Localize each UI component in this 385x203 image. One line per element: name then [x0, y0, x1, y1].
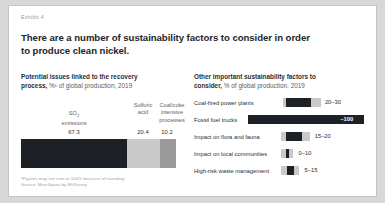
bar-track-impact-on-flora-and-fauna: [281, 132, 310, 141]
stacked-bar-segment-coal-coke: [160, 139, 176, 168]
page-title: There are a number of sustainability fac…: [21, 31, 321, 57]
segment-value-so2: 67.3: [21, 129, 127, 135]
segment-label-coal-line3: processes: [159, 117, 185, 123]
bar-row: Fossil fuel trucks ~100: [194, 115, 364, 126]
stacked-bar: [21, 139, 179, 168]
segment-label-so2-subscript: 2: [77, 113, 79, 118]
bar-value-high-risk-waste-management: 5–15: [305, 167, 318, 173]
bar-row: Coal-fired power plants 20–30: [194, 98, 364, 109]
left-heading-units: %¹ of global production, 2019: [47, 82, 132, 89]
bar-row-label-impact-on-flora-and-fauna: Impact on flora and fauna: [194, 133, 260, 141]
bar-row-label-high-risk-waste-management: High-risk waste management: [194, 167, 269, 175]
bar-value-fossil-fuel-trucks: ~100: [340, 116, 353, 122]
bar-row: Impact on flora and fauna 15–20: [194, 132, 364, 143]
segment-label-sulfuric-line1: Sulfuric: [134, 102, 153, 108]
bar-value-impact-on-local-communities: 0–10: [299, 150, 312, 156]
stacked-bar-segment-sulfuric-acid: [127, 139, 159, 168]
bar-fill-impact-on-flora-and-fauna: [286, 132, 302, 141]
stacked-bar-segment-so2: [21, 139, 127, 168]
segment-label-coal-line1: Coal/coke: [160, 102, 185, 108]
segment-label-so2-line2: emissions: [62, 120, 87, 126]
bar-fill-high-risk-waste-management: [287, 166, 294, 175]
bar-fill-impact-on-local-communities: [286, 149, 290, 158]
bar-row: High-risk waste management 5–15: [194, 166, 364, 177]
bar-row-label-fossil-fuel-trucks: Fossil fuel trucks: [194, 116, 237, 124]
bar-row: Impact on local communities 0–10: [194, 149, 364, 160]
right-heading-units: % of global production, 2019: [222, 82, 305, 89]
exhibit-label: Exhibit 4: [21, 14, 44, 20]
footnote-rounding: ¹Figures may not sum to 100% because of …: [21, 176, 125, 182]
stacked-bar-chart: SO2 emissions Sulfuric acid Coal/coke in…: [21, 98, 179, 170]
exhibit-card: Exhibit 4 There are a number of sustaina…: [8, 5, 377, 197]
bar-track-high-risk-waste-management: [281, 166, 300, 175]
bar-fill-coal-fired-power-plants: [286, 98, 311, 107]
segment-label-so2: SO2 emissions: [21, 110, 127, 127]
right-panel-heading: Other important sustainability factors t…: [194, 72, 359, 90]
footnote-source: Source: MineSpans by McKinsey: [21, 182, 87, 188]
left-heading-line1: Potential issues linked to the recovery: [21, 73, 138, 80]
left-heading-line2: process,: [21, 82, 47, 89]
bar-value-coal-fired-power-plants: 20–30: [325, 99, 341, 105]
right-heading-line2: consider,: [194, 82, 222, 89]
segment-value-coal-coke: 10.2: [155, 129, 179, 135]
left-panel-heading: Potential issues linked to the recovery …: [21, 72, 171, 90]
bullet-bar-chart: Coal-fired power plants 20–30 Fossil fue…: [194, 98, 364, 174]
right-heading-line1: Other important sustainability factors t…: [194, 73, 316, 80]
segment-label-so2-line1: SO: [69, 110, 77, 116]
segment-label-coal-line2: intensive: [161, 109, 183, 115]
bar-value-impact-on-flora-and-fauna: 15–20: [315, 133, 331, 139]
bar-row-label-coal-fired-power-plants: Coal-fired power plants: [194, 99, 254, 107]
bar-track-impact-on-local-communities: [281, 149, 294, 158]
segment-label-sulfuric-line2: acid: [138, 109, 148, 115]
bar-row-label-impact-on-local-communities: Impact on local communities: [194, 150, 267, 158]
bar-track-coal-fired-power-plants: [283, 98, 320, 107]
segment-label-coal-coke: Coal/coke intensive processes: [155, 102, 189, 124]
